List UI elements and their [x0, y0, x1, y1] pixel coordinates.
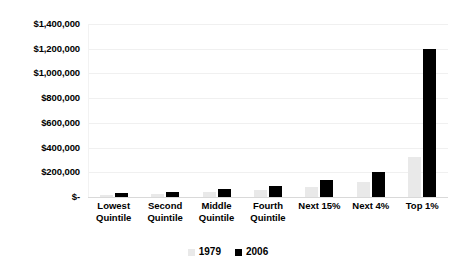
legend-swatch-icon: [235, 249, 242, 256]
legend-label: 1979: [199, 247, 221, 257]
bars-layer: [88, 24, 448, 197]
legend-entry-1979[interactable]: 1979: [188, 247, 221, 257]
x-axis-category-line: Next 4%: [345, 200, 396, 212]
bar-2006-middle-quintile[interactable]: [218, 189, 231, 197]
x-axis-category-line: Second: [139, 200, 190, 212]
y-axis-tick-label: $1,200,000: [0, 44, 80, 54]
x-axis-category-label: SecondQuintile: [139, 200, 190, 223]
bar-group: [242, 24, 293, 197]
x-axis-category-label: LowestQuintile: [88, 200, 139, 223]
bar-chart: $1,400,000$1,200,000$1,000,000$800,000$6…: [0, 0, 456, 272]
x-axis-category-label: FourthQuintile: [242, 200, 293, 223]
legend-label: 2006: [246, 247, 268, 257]
x-axis-category-label: MiddleQuintile: [191, 200, 242, 223]
x-axis-category-line: Quintile: [139, 212, 190, 224]
bar-group: [88, 24, 139, 197]
legend-entry-2006[interactable]: 2006: [235, 247, 268, 257]
x-axis-category-label: Next 15%: [294, 200, 345, 212]
x-axis-category-line: Fourth: [242, 200, 293, 212]
bar-group: [397, 24, 448, 197]
y-axis-tick-label: $800,000: [0, 93, 80, 103]
bar-1979-top-1[interactable]: [408, 157, 421, 197]
y-axis: $1,400,000$1,200,000$1,000,000$800,000$6…: [0, 0, 84, 210]
x-axis-category-line: Next 15%: [294, 200, 345, 212]
bar-group: [139, 24, 190, 197]
bar-1979-next-4[interactable]: [357, 182, 370, 197]
y-axis-tick-label: $1,000,000: [0, 68, 80, 78]
bar-group: [294, 24, 345, 197]
x-axis-line: [88, 197, 448, 198]
x-axis: LowestQuintileSecondQuintileMiddleQuinti…: [88, 200, 448, 236]
bar-1979-next-15[interactable]: [305, 187, 318, 197]
bar-1979-fourth-quintile[interactable]: [254, 190, 267, 197]
y-axis-tick-label: $400,000: [0, 143, 80, 153]
x-axis-category-line: Lowest: [88, 200, 139, 212]
y-axis-tick-label: $-: [0, 192, 80, 202]
x-axis-category-line: Top 1%: [397, 200, 448, 212]
x-axis-category-label: Top 1%: [397, 200, 448, 212]
bar-2006-next-4[interactable]: [372, 172, 385, 197]
y-axis-tick-label: $200,000: [0, 167, 80, 177]
bar-1979-lowest-quintile[interactable]: [100, 195, 113, 197]
bar-2006-next-15[interactable]: [320, 180, 333, 197]
x-axis-category-line: Quintile: [191, 212, 242, 224]
bar-2006-top-1[interactable]: [423, 49, 436, 197]
y-axis-tick-label: $1,400,000: [0, 19, 80, 29]
x-axis-category-label: Next 4%: [345, 200, 396, 212]
bar-1979-middle-quintile[interactable]: [203, 192, 216, 197]
chart-legend: 19792006: [0, 243, 456, 261]
bar-group: [345, 24, 396, 197]
bar-2006-fourth-quintile[interactable]: [269, 186, 282, 197]
x-axis-category-line: Quintile: [88, 212, 139, 224]
legend-swatch-icon: [188, 249, 195, 256]
y-axis-tick-label: $600,000: [0, 118, 80, 128]
bar-group: [191, 24, 242, 197]
bar-2006-lowest-quintile[interactable]: [115, 193, 128, 197]
x-axis-category-line: Quintile: [242, 212, 293, 224]
x-axis-category-line: Middle: [191, 200, 242, 212]
bar-1979-second-quintile[interactable]: [151, 194, 164, 197]
bar-2006-second-quintile[interactable]: [166, 192, 179, 197]
